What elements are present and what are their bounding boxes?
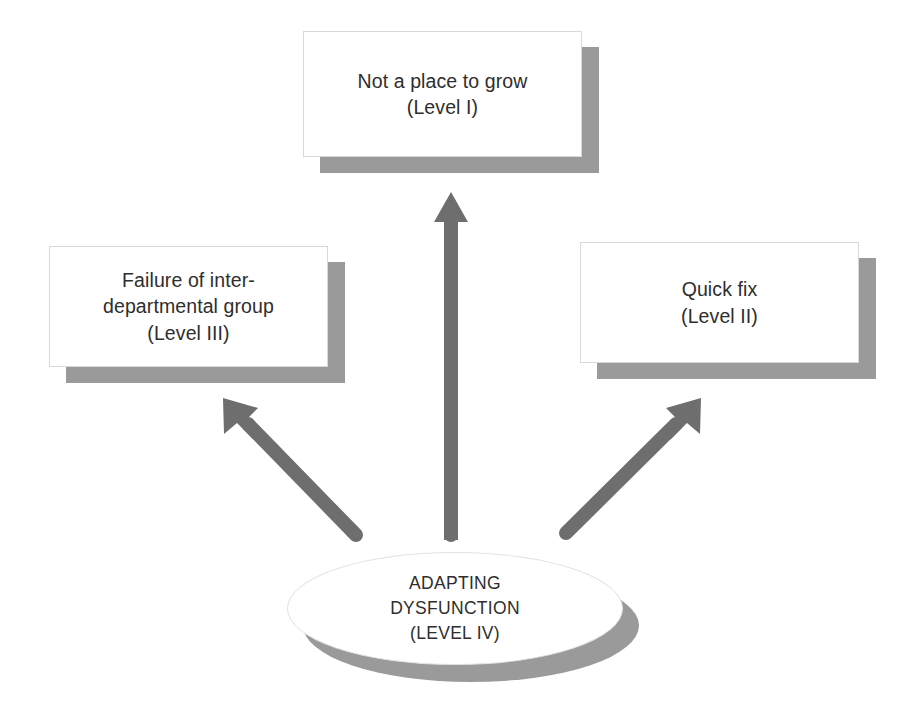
- node-level-4-label: ADAPTING DYSFUNCTION (LEVEL IV): [380, 571, 530, 646]
- node-level-2-label: Quick fix (Level II): [671, 276, 768, 329]
- arrow-root-to-level-3: [223, 398, 356, 535]
- node-level-3-label: Failure of inter- departmental group (Le…: [93, 267, 284, 346]
- node-level-4[interactable]: ADAPTING DYSFUNCTION (LEVEL IV): [287, 552, 639, 682]
- diagram-canvas: Not a place to grow (Level I) Failure of…: [0, 0, 914, 728]
- arrow-root-to-level-1: [434, 192, 468, 542]
- node-level-2-face[interactable]: Quick fix (Level II): [580, 242, 859, 363]
- node-level-3[interactable]: Failure of inter- departmental group (Le…: [49, 246, 345, 383]
- node-level-2[interactable]: Quick fix (Level II): [580, 242, 876, 379]
- node-level-1-face[interactable]: Not a place to grow (Level I): [303, 31, 582, 157]
- node-level-3-face[interactable]: Failure of inter- departmental group (Le…: [49, 246, 328, 367]
- node-level-4-face[interactable]: ADAPTING DYSFUNCTION (LEVEL IV): [287, 552, 623, 665]
- arrow-root-to-level-2: [566, 398, 701, 533]
- node-level-1[interactable]: Not a place to grow (Level I): [303, 31, 599, 173]
- node-level-1-label: Not a place to grow (Level I): [348, 68, 538, 121]
